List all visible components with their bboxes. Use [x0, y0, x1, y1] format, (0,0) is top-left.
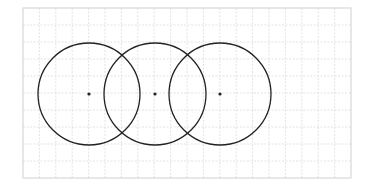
center-dot-2	[153, 92, 156, 95]
grid-lines	[23, 8, 351, 178]
grid-diagram	[0, 0, 367, 193]
center-dot-3	[218, 92, 221, 95]
center-dot-1	[87, 92, 90, 95]
